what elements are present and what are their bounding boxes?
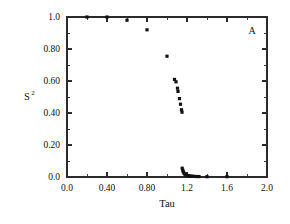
- y-tick-label: 0.20: [43, 140, 60, 150]
- data-point-marker: [180, 111, 183, 114]
- data-point-marker: [105, 15, 108, 18]
- data-point-marker: [85, 15, 88, 18]
- x-axis-title: Tau: [159, 198, 175, 209]
- panel-label: A: [248, 25, 256, 36]
- x-tick-label: 1.6: [221, 183, 233, 193]
- y-axis-title-base: S: [24, 91, 30, 102]
- data-point-marker: [125, 19, 128, 22]
- figure-container: 0.00.400.801.21.62.0 0.00.200.400.600.80…: [0, 0, 290, 224]
- data-point-marker: [225, 175, 228, 178]
- data-point-marker: [176, 90, 179, 93]
- y-axis-title-superscript: 2: [31, 89, 35, 97]
- data-point-marker: [179, 103, 182, 106]
- x-axis-tick-labels: 0.00.400.801.21.62.0: [61, 183, 273, 193]
- data-point-marker: [176, 87, 179, 90]
- x-tick-label: 0.80: [139, 183, 156, 193]
- x-tick-label: 0.40: [99, 183, 116, 193]
- y-tick-label: 0.80: [43, 44, 60, 54]
- y-axis-title: S 2: [24, 89, 35, 102]
- y-axis-tick-labels: 0.00.200.400.600.801.0: [43, 12, 60, 182]
- x-tick-label: 1.2: [181, 183, 193, 193]
- y-tick-label: 0.0: [48, 172, 60, 182]
- x-tick-label: 2.0: [261, 183, 273, 193]
- data-point-marker: [205, 175, 208, 178]
- data-point-marker: [145, 28, 148, 31]
- x-tick-label: 0.0: [61, 183, 73, 193]
- data-point-marker: [178, 97, 181, 100]
- data-point-marker: [165, 55, 168, 58]
- plot-area-background: [67, 17, 267, 177]
- scatter-plot: 0.00.400.801.21.62.0 0.00.200.400.600.80…: [0, 0, 290, 224]
- y-tick-label: 0.40: [43, 108, 60, 118]
- y-tick-label: 0.60: [43, 76, 60, 86]
- data-point-marker: [174, 80, 177, 83]
- data-point-marker: [197, 175, 200, 178]
- y-tick-label: 1.0: [48, 12, 60, 22]
